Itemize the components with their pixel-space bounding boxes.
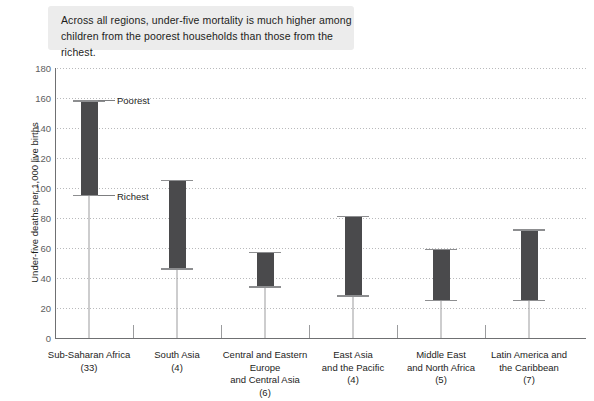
x-label-0: Sub-Saharan Africa (33) xyxy=(39,349,139,374)
richest-cap xyxy=(513,300,545,302)
x-label-3: East Asia and the Pacific (4) xyxy=(303,349,403,387)
range-bar[interactable] xyxy=(257,253,274,288)
poorest-callout-label: Poorest xyxy=(117,95,150,106)
range-bar[interactable] xyxy=(169,181,186,270)
x-label-1: South Asia (4) xyxy=(127,349,227,374)
x-label-4: Middle East and North Africa (5) xyxy=(391,349,491,387)
richest-cap xyxy=(249,286,281,288)
richest-cap xyxy=(425,300,457,302)
poorest-callout-leader xyxy=(98,100,115,101)
category-separator-2 xyxy=(309,325,310,338)
poorest-cap xyxy=(337,216,369,218)
chart-root: Across all regions, under-five mortality… xyxy=(0,0,594,401)
category-separator-0 xyxy=(133,325,134,338)
richest-cap xyxy=(337,295,369,297)
richest-cap xyxy=(161,268,193,270)
poorest-cap xyxy=(249,252,281,254)
category-separator-3 xyxy=(397,325,398,338)
richest-callout-leader xyxy=(98,195,115,196)
range-bar[interactable] xyxy=(521,230,538,301)
series-layer xyxy=(0,0,594,401)
poorest-cap xyxy=(425,249,457,251)
poorest-cap xyxy=(161,180,193,182)
x-label-5: Latin America and the Caribbean (7) xyxy=(479,349,579,387)
range-bar[interactable] xyxy=(345,217,362,297)
range-bar[interactable] xyxy=(433,250,450,301)
x-label-2: Central and Eastern Europe and Central A… xyxy=(215,349,315,399)
category-separator-1 xyxy=(221,325,222,338)
range-bar[interactable] xyxy=(81,101,98,196)
category-separator-4 xyxy=(485,325,486,338)
poorest-cap xyxy=(513,229,545,231)
richest-callout-label: Richest xyxy=(117,191,149,202)
